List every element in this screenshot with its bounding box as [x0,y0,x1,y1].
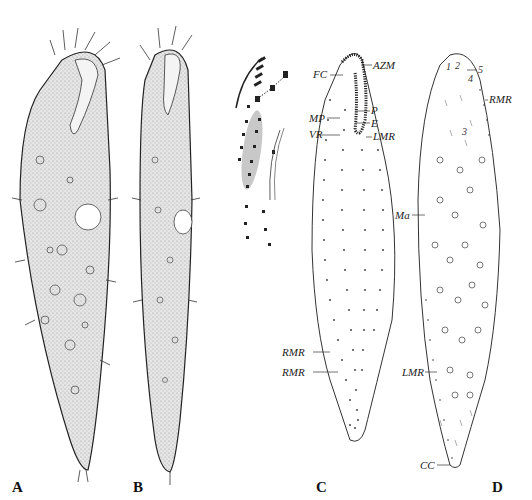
label-d-number-5: 5 [478,64,483,75]
label-lmr-c: LMR [372,130,395,142]
label-rmr-d: RMR [488,93,512,105]
panel-d-dorsal [412,54,500,468]
label-lmr-d: LMR [401,366,424,378]
figure-canvas: A B [0,0,532,500]
label-ma: Ma [394,209,410,221]
panel-b-cell [132,26,200,485]
label-cc: CC [420,459,435,471]
label-rmr-c-2: RMR [281,366,305,378]
label-d-number-2: 2 [455,60,460,71]
label-d-number-3: 3 [461,126,467,137]
panel-a-cell [12,28,120,482]
label-azm: AZM [372,59,396,71]
label-p: P [370,104,378,116]
label-vr: VR [309,128,323,140]
panel-label-b: B [133,479,143,495]
label-rmr-c-1: RMR [281,346,305,358]
label-d-number-4: 4 [468,73,473,84]
label-d-number-1: 1 [446,61,451,72]
cirri-inset-diagram [236,56,288,246]
panel-label-d: D [492,479,503,495]
label-fc: FC [312,68,328,80]
label-mp: MP [308,112,325,124]
label-e: E [370,117,378,129]
panel-label-a: A [12,479,23,495]
panel-label-c: C [316,479,327,495]
